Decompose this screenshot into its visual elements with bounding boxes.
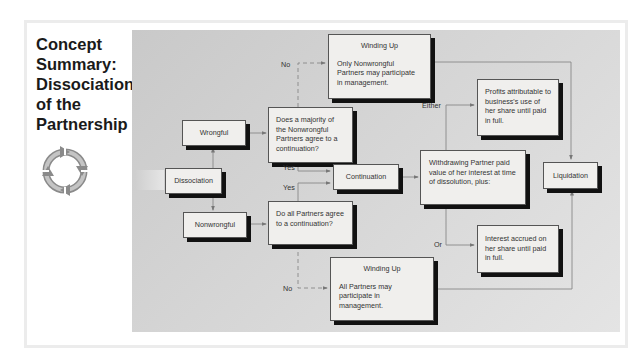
edge-label-no-top: No (281, 60, 290, 69)
edge-label-either: Either (422, 101, 441, 110)
node-all-question: Do all Partners agree to a continuation? (268, 201, 353, 245)
node-liquidation: Liquidation (543, 162, 598, 189)
node-label: Does a majority of the Nonwrongful Partn… (269, 108, 352, 160)
node-wrongful: Wrongful (182, 120, 246, 146)
node-continuation: Continuation (333, 164, 399, 190)
edge-label-or: Or (434, 240, 442, 249)
node-label: All Partners may participate in manageme… (331, 274, 433, 311)
node-dissociation: Dissociation (165, 168, 222, 194)
node-winding-up-bottom: Winding Up All Partners may participate … (330, 257, 434, 321)
node-withdrawing: Withdrawing Partner paid value of her in… (420, 150, 526, 205)
node-title: Winding Up (331, 258, 433, 274)
edge-label-no-bottom: No (283, 284, 292, 293)
node-label: Interest accrued on her share until paid… (478, 226, 558, 271)
node-label: Liquidation (553, 171, 588, 181)
node-winding-up-top: Winding Up Only Nonwrongful Partners may… (328, 34, 431, 99)
node-interest: Interest accrued on her share until paid… (477, 225, 559, 273)
node-label: Profits attributable to business's use o… (478, 80, 558, 132)
edge-label-yes-top: Yes (283, 163, 295, 172)
node-profits: Profits attributable to business's use o… (477, 79, 559, 136)
node-label: Continuation (346, 172, 386, 182)
node-label: Do all Partners agree to a continuation? (269, 202, 352, 235)
node-label: Dissociation (174, 176, 213, 186)
node-nonwrongful: Nonwrongful (183, 212, 247, 238)
node-majority-question: Does a majority of the Nonwrongful Partn… (268, 107, 353, 163)
node-label: Only Nonwrongful Partners may participat… (329, 51, 430, 88)
node-label: Withdrawing Partner paid value of her in… (421, 151, 525, 194)
node-label: Nonwrongful (195, 220, 235, 230)
node-label: Wrongful (200, 128, 229, 138)
edge-label-yes-bottom: Yes (283, 183, 295, 192)
node-title: Winding Up (329, 35, 430, 51)
connector-lines (0, 0, 635, 358)
